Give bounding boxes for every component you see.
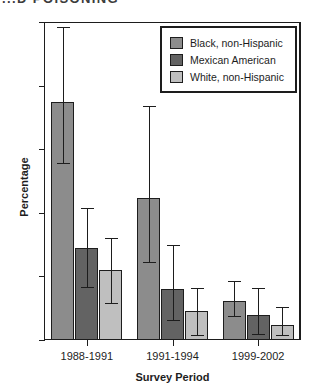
legend-swatch-icon bbox=[170, 54, 183, 66]
error-bar-cap-lower bbox=[81, 287, 94, 288]
error-bar-line bbox=[197, 288, 198, 335]
y-axis-title: Percentage bbox=[18, 117, 30, 257]
y-tick-mark bbox=[39, 340, 45, 341]
x-tick-label: 1999-2002 bbox=[203, 350, 313, 362]
legend-label: Mexican American bbox=[190, 54, 276, 66]
legend-item: Mexican American bbox=[170, 51, 289, 68]
error-bar-cap-lower bbox=[143, 262, 156, 263]
error-bar-cap-upper bbox=[167, 245, 180, 246]
legend-item: White, non-Hispanic bbox=[170, 68, 289, 85]
error-bar-line bbox=[87, 208, 88, 287]
y-tick-mark bbox=[39, 276, 45, 277]
y-tick-mark bbox=[39, 149, 45, 150]
error-bar-cap-upper bbox=[228, 281, 241, 282]
y-tick-mark bbox=[39, 213, 45, 214]
error-bar-cap-upper bbox=[143, 106, 156, 107]
error-bar-cap-upper bbox=[57, 27, 70, 28]
error-bar-line bbox=[63, 27, 64, 163]
error-bar-line bbox=[111, 238, 112, 303]
y-tick-mark bbox=[39, 22, 45, 23]
error-bar-line bbox=[173, 245, 174, 320]
error-bar-cap-upper bbox=[276, 307, 289, 308]
error-bar-line bbox=[149, 106, 150, 262]
error-bar-cap-upper bbox=[252, 288, 265, 289]
x-tick-mark bbox=[173, 340, 174, 346]
error-bar-cap-upper bbox=[81, 208, 94, 209]
chart-legend: Black, non-HispanicMexican AmericanWhite… bbox=[160, 26, 297, 93]
legend-label: White, non-Hispanic bbox=[190, 71, 284, 83]
error-bar-cap-lower bbox=[167, 320, 180, 321]
error-bar-cap-lower bbox=[252, 334, 265, 335]
error-bar-cap-lower bbox=[276, 335, 289, 336]
legend-swatch-icon bbox=[170, 71, 183, 83]
bar-chart: Percentage Survey Period Black, non-Hisp… bbox=[0, 0, 314, 388]
error-bar-line bbox=[282, 307, 283, 335]
legend-label: Black, non-Hispanic bbox=[190, 37, 283, 49]
error-bar-cap-upper bbox=[191, 288, 204, 289]
x-tick-mark bbox=[87, 340, 88, 346]
error-bar-cap-lower bbox=[105, 303, 118, 304]
x-axis-title: Survey Period bbox=[44, 371, 301, 383]
error-bar-cap-lower bbox=[191, 335, 204, 336]
error-bar-line bbox=[234, 281, 235, 315]
x-tick-mark bbox=[258, 340, 259, 346]
error-bar-cap-lower bbox=[228, 316, 241, 317]
error-bar-line bbox=[258, 288, 259, 334]
legend-item: Black, non-Hispanic bbox=[170, 34, 289, 51]
error-bar-cap-lower bbox=[57, 163, 70, 164]
y-tick-mark bbox=[39, 86, 45, 87]
legend-swatch-icon bbox=[170, 37, 183, 49]
error-bar-cap-upper bbox=[105, 238, 118, 239]
